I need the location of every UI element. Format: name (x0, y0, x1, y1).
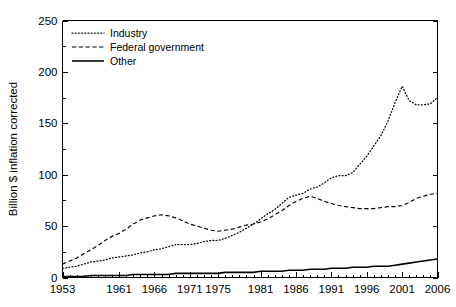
chart-container: 050100150200250 195319611966197119751981… (0, 0, 456, 307)
y-axis-title: Billion $ inflation corrected (7, 82, 19, 216)
x-tick-label: 1975 (205, 283, 231, 295)
x-tick-label: 2001 (389, 283, 415, 295)
y-axis-tick-labels: 050100150200250 (38, 15, 57, 284)
y-tick-label: 150 (38, 117, 57, 129)
chart-legend: IndustryFederal governmentOther (72, 27, 204, 67)
y-tick-label: 50 (45, 220, 58, 232)
series-line-other (63, 259, 438, 276)
x-tick-label: 1971 (177, 283, 203, 295)
x-tick-label: 1991 (319, 283, 345, 295)
series-line-federal-government (63, 193, 438, 264)
x-tick-label: 1996 (354, 283, 380, 295)
series-line-industry (63, 86, 438, 268)
series-group (63, 86, 438, 276)
x-axis-tick-labels: 1953196119661971197519811986199119962001… (50, 283, 451, 295)
x-tick-label: 1961 (106, 283, 132, 295)
x-tick-label: 1966 (142, 283, 168, 295)
legend-label: Federal government (110, 41, 204, 53)
line-chart: 050100150200250 195319611966197119751981… (0, 0, 456, 307)
y-tick-label: 250 (38, 15, 57, 27)
x-tick-label: 2006 (425, 283, 451, 295)
x-tick-label: 1986 (283, 283, 309, 295)
x-tick-label: 1981 (248, 283, 274, 295)
legend-label: Other (110, 55, 137, 67)
x-tick-label: 1953 (50, 283, 76, 295)
legend-label: Industry (110, 27, 148, 39)
y-tick-label: 200 (38, 66, 57, 78)
y-tick-label: 100 (38, 169, 57, 181)
